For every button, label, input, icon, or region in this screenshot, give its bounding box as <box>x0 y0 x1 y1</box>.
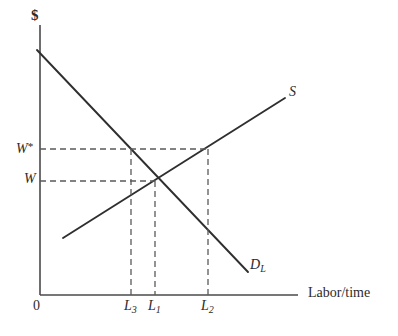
y-axis-label: $ <box>31 8 39 23</box>
supply-curve-label: S <box>289 85 296 99</box>
l3-tick-base: L <box>124 298 132 313</box>
demand-curve <box>37 50 248 272</box>
l1-tick-label: L1 <box>148 299 161 315</box>
origin-label: 0 <box>33 299 40 313</box>
x-axis-label: Labor/time <box>308 286 370 300</box>
minimum-wage-tick-label: W* <box>16 141 33 156</box>
demand-curve-label-base: D <box>250 257 260 272</box>
l2-tick-label: L2 <box>201 299 214 315</box>
labor-market-diagram: $ S DL Labor/time W* W 0 L3 L1 L2 <box>0 0 398 336</box>
l3-tick-label: L3 <box>124 299 137 315</box>
supply-curve <box>63 98 285 238</box>
demand-curve-label-subscript: L <box>260 263 266 274</box>
l1-tick-subscript: 1 <box>156 304 161 315</box>
l2-tick-base: L <box>201 298 209 313</box>
l2-tick-subscript: 2 <box>209 304 214 315</box>
minimum-wage-tick-star: * <box>28 140 34 152</box>
demand-curve-label: DL <box>250 258 266 274</box>
minimum-wage-tick-base: W <box>16 141 28 156</box>
l3-tick-subscript: 3 <box>132 304 137 315</box>
l1-tick-base: L <box>148 298 156 313</box>
equilibrium-wage-tick-label: W <box>24 172 36 186</box>
